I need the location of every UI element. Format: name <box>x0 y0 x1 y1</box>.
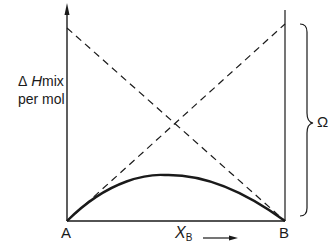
x-direction-arrow-icon <box>229 236 238 241</box>
y-axis-label: Δ Hmix per mol <box>18 72 65 108</box>
point-b-label: B <box>279 224 289 241</box>
diagram-canvas <box>0 0 333 246</box>
per-mol-label: per mol <box>18 90 65 108</box>
omega-label: Ω <box>317 113 328 130</box>
x-symbol: X <box>175 224 186 241</box>
delta-symbol: Δ <box>18 73 27 89</box>
dashed-line-a-to-b-high <box>67 24 285 221</box>
enthalpy-curve <box>67 175 285 221</box>
x-subscript: B <box>186 232 193 243</box>
point-a-label: A <box>61 224 71 241</box>
x-axis-label: XB <box>175 224 192 243</box>
dashed-line-a-high-to-b <box>67 28 285 221</box>
y-axis-arrow-icon <box>65 3 70 15</box>
mix-suffix: mix <box>42 73 64 89</box>
enthalpy-symbol: H <box>31 72 42 89</box>
omega-brace <box>300 24 313 216</box>
